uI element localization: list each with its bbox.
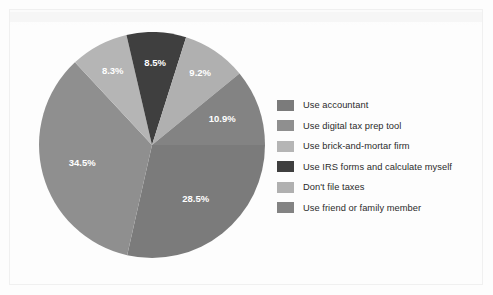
pie-slice-value-label: 28.5% xyxy=(182,193,209,204)
legend-item-label: Use friend or family member xyxy=(303,203,421,213)
pie-slice-value-label: 8.3% xyxy=(102,65,124,76)
legend-item[interactable]: Use brick-and-mortar firm xyxy=(277,140,477,152)
legend-color-swatch xyxy=(277,202,294,213)
legend-item-label: Use brick-and-mortar firm xyxy=(303,141,410,151)
legend-item[interactable]: Don't file taxes xyxy=(277,181,477,193)
chart-legend: Use accountantUse digital tax prep toolU… xyxy=(277,99,477,223)
pie-chart-svg: 28.5%34.5%8.3%8.5%9.2%10.9% xyxy=(39,32,265,258)
legend-color-swatch xyxy=(277,100,294,111)
pie-slice-value-label: 10.9% xyxy=(209,113,236,124)
legend-item-label: Don't file taxes xyxy=(303,182,364,192)
legend-item[interactable]: Use digital tax prep tool xyxy=(277,120,477,132)
legend-item-label: Use accountant xyxy=(303,100,368,110)
legend-color-swatch xyxy=(277,182,294,193)
scan-streak xyxy=(10,12,482,22)
pie-slice-value-label: 34.5% xyxy=(69,157,96,168)
legend-color-swatch xyxy=(277,161,294,172)
legend-item-label: Use digital tax prep tool xyxy=(303,121,401,131)
legend-color-swatch xyxy=(277,141,294,152)
legend-item[interactable]: Use friend or family member xyxy=(277,202,477,214)
legend-item-label: Use IRS forms and calculate myself xyxy=(303,162,452,172)
pie-chart: 28.5%34.5%8.3%8.5%9.2%10.9% xyxy=(39,32,265,258)
pie-chart-figure: 28.5%34.5%8.3%8.5%9.2%10.9% Use accounta… xyxy=(0,0,493,295)
pie-slice-value-label: 9.2% xyxy=(189,67,211,78)
legend-item[interactable]: Use IRS forms and calculate myself xyxy=(277,161,477,173)
pie-slice-value-label: 8.5% xyxy=(144,57,166,68)
legend-item[interactable]: Use accountant xyxy=(277,99,477,111)
legend-color-swatch xyxy=(277,120,294,131)
